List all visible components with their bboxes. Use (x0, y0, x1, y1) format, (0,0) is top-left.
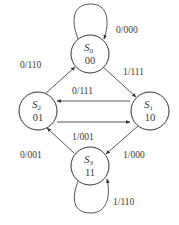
edge-s3-s2 (47, 128, 74, 153)
svg-text:10: 10 (145, 112, 156, 123)
state-s2: S2 01 (19, 92, 57, 130)
label-s3-s2: 0/001 (20, 150, 42, 160)
svg-text:00: 00 (85, 55, 96, 66)
state-diagram: S0 00 S1 10 S2 01 S3 11 0/000 1/111 0/11… (0, 0, 179, 225)
state-s1: S1 10 (131, 92, 169, 130)
state-s3: S3 11 (71, 147, 109, 185)
state-s0: S0 00 (71, 35, 109, 73)
label-s1-s2: 0/111 (72, 86, 93, 96)
label-s2-s1: 1/001 (72, 132, 94, 142)
edge-s2-s0 (46, 67, 75, 93)
label-s0-s0: 0/000 (116, 25, 138, 35)
label-s3-s3: 1/110 (113, 197, 135, 207)
label-s2-s0: 0/110 (20, 60, 42, 70)
label-s0-s1: 1/111 (123, 67, 144, 77)
label-s1-s3: 1/000 (123, 150, 145, 160)
svg-text:11: 11 (85, 167, 95, 178)
svg-text:01: 01 (33, 112, 44, 123)
edge-s0-s0 (74, 4, 107, 39)
